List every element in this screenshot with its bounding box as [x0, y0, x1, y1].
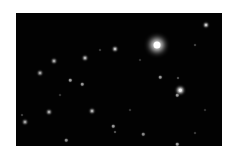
star — [195, 45, 196, 46]
star — [22, 115, 23, 116]
star — [91, 110, 93, 112]
star — [81, 83, 83, 85]
star — [39, 72, 41, 74]
star — [65, 139, 67, 141]
star — [24, 121, 26, 123]
star — [53, 60, 55, 62]
star — [205, 110, 206, 111]
star — [115, 132, 116, 133]
star — [140, 60, 141, 61]
star — [178, 78, 179, 79]
star — [69, 79, 71, 81]
starfield-image — [16, 13, 222, 146]
star — [100, 50, 101, 51]
star — [142, 133, 144, 135]
star — [179, 89, 182, 92]
star — [195, 133, 196, 134]
star — [176, 94, 178, 96]
star — [205, 24, 207, 26]
star — [159, 76, 161, 78]
star — [130, 110, 131, 111]
star — [84, 57, 86, 59]
star — [48, 111, 50, 113]
star — [114, 48, 116, 50]
star — [60, 95, 61, 96]
bright-star — [154, 42, 161, 49]
star — [176, 143, 178, 145]
star — [112, 125, 114, 127]
